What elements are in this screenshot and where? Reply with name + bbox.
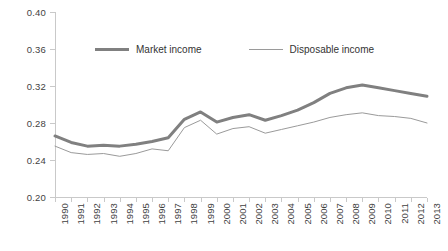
- legend-item-market-income: Market income: [95, 44, 202, 55]
- chart-legend: Market income Disposable income: [95, 44, 374, 55]
- y-axis-tick: [50, 197, 55, 198]
- y-axis-tick: [50, 123, 55, 124]
- gini-coefficient-line-chart: 0.200.240.280.320.360.40 199019911992199…: [0, 0, 448, 251]
- y-axis-tick: [50, 86, 55, 87]
- legend-swatch-disposable-income-icon: [249, 49, 283, 50]
- legend-label-market-income: Market income: [136, 44, 202, 55]
- legend-label-disposable-income: Disposable income: [290, 44, 375, 55]
- y-axis-tick: [50, 49, 55, 50]
- legend-item-disposable-income: Disposable income: [249, 44, 375, 55]
- series-line-disposable-income: [55, 113, 427, 156]
- legend-swatch-market-income-icon: [95, 48, 129, 51]
- y-axis-tick: [50, 12, 55, 13]
- y-axis-tick: [50, 160, 55, 161]
- plot-area: [0, 0, 448, 251]
- series-line-market-income: [55, 85, 427, 146]
